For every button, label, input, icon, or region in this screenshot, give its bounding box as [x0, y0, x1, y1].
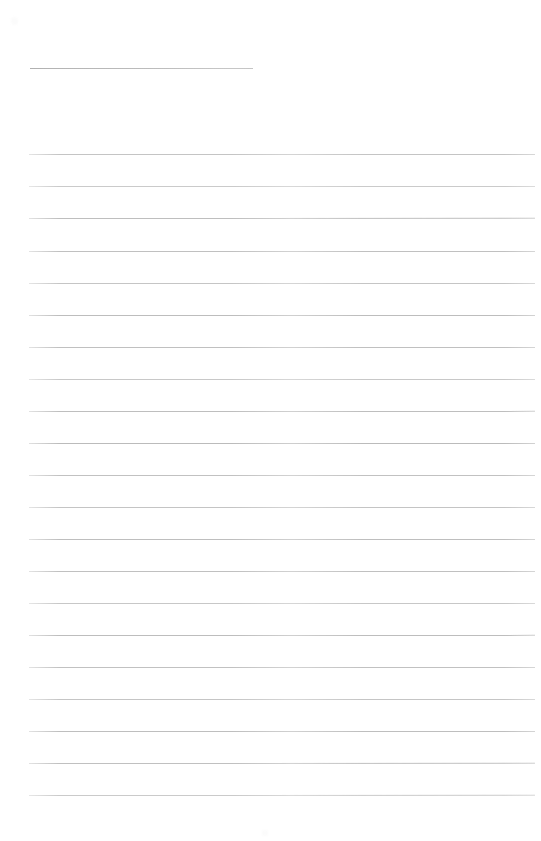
rule-line [29, 379, 535, 380]
rule-line [29, 251, 535, 252]
rule-line [29, 154, 535, 155]
rule-line [29, 347, 535, 348]
rule-line [29, 475, 535, 476]
rule-line [29, 635, 535, 636]
writing-area[interactable] [0, 0, 541, 841]
rule-line [29, 763, 535, 764]
rule-line [29, 411, 535, 412]
rule-line [29, 186, 535, 187]
scan-smudge-bottom-center-artifact [262, 830, 268, 836]
ruled-paper-page [0, 0, 541, 841]
rule-line [29, 603, 535, 604]
rule-line [29, 667, 535, 668]
rule-line [29, 315, 535, 316]
rule-line [29, 507, 535, 508]
rule-line [29, 571, 535, 572]
rule-line [29, 539, 535, 540]
rule-line [29, 731, 535, 732]
rule-line [29, 699, 535, 700]
rule-line [29, 218, 535, 219]
rule-line [29, 283, 535, 284]
rule-line [29, 795, 535, 796]
rule-line [29, 443, 535, 444]
